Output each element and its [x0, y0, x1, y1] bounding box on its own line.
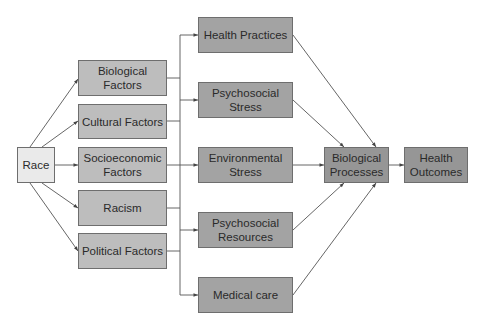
node-psychosocial-stress: Psychosocial Stress [198, 82, 293, 118]
node-biological-processes: Biological Processes [324, 147, 389, 183]
node-label: Health Outcomes [410, 151, 462, 179]
node-health-outcomes: Health Outcomes [404, 147, 468, 183]
node-health-practices: Health Practices [198, 17, 293, 53]
node-label: Biological Factors [93, 64, 152, 92]
node-label: Medical care [213, 288, 278, 302]
node-label: Biological Processes [327, 151, 386, 179]
node-label: Environmental Stress [209, 151, 283, 179]
node-race: Race [17, 147, 55, 183]
node-biological-factors: Biological Factors [78, 60, 167, 96]
node-psychosocial-resources: Psychosocial Resources [198, 212, 293, 248]
node-label: Cultural Factors [82, 115, 163, 129]
race-health-pathway-diagram: Race Biological Factors Cultural Factors… [0, 0, 482, 329]
arrow-race-political [30, 183, 78, 251]
arrow-race-cultural [42, 121, 78, 147]
node-political-factors: Political Factors [78, 233, 167, 269]
arrow-race-biological [30, 79, 78, 147]
arrow-medical-care-process [293, 183, 376, 295]
node-socioeconomic-factors: Socioeconomic Factors [78, 147, 167, 183]
node-racism: Racism [78, 190, 167, 226]
node-label: Psychosocial Stress [212, 86, 279, 114]
node-label: Psychosocial Resources [212, 216, 279, 244]
node-label: Political Factors [82, 244, 163, 258]
arrow-psychosocial-stress-process [293, 100, 344, 147]
node-label: Race [23, 158, 50, 172]
node-label: Health Practices [204, 28, 288, 42]
node-environmental-stress: Environmental Stress [198, 147, 293, 183]
arrow-race-racism [42, 183, 78, 208]
node-medical-care: Medical care [198, 277, 293, 313]
arrow-health-practices-process [293, 35, 376, 147]
node-label: Socioeconomic Factors [79, 151, 166, 179]
arrow-psychosocial-resources-process [293, 183, 344, 230]
node-label: Racism [103, 201, 141, 215]
node-cultural-factors: Cultural Factors [78, 104, 167, 139]
